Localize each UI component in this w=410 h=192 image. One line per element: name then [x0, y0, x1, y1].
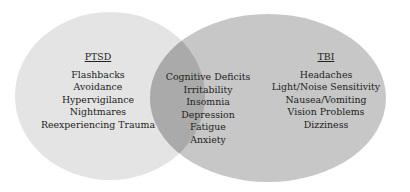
tbi-label-group: TBI Headaches Light/Noise Sensitivity Na… [272, 51, 380, 132]
ptsd-item: Avoidance [41, 81, 155, 94]
ptsd-item: Nightmares [41, 106, 155, 119]
tbi-title: TBI [272, 51, 380, 64]
ptsd-title: PTSD [41, 51, 155, 64]
intersection-label-group: Cognitive Deficits Irritability Insomnia… [166, 71, 251, 147]
tbi-item: Light/Noise Sensitivity [272, 81, 380, 94]
ptsd-item: Hypervigilance [41, 94, 155, 107]
intersection-item: Cognitive Deficits [166, 71, 251, 84]
intersection-item: Anxiety [166, 134, 251, 147]
tbi-item: Dizziness [272, 119, 380, 132]
tbi-item: Headaches [272, 69, 380, 82]
intersection-item: Insomnia [166, 96, 251, 109]
intersection-item: Irritability [166, 84, 251, 97]
ptsd-item: Flashbacks [41, 69, 155, 82]
ptsd-item: Reexperiencing Trauma [41, 119, 155, 132]
ptsd-label-group: PTSD Flashbacks Avoidance Hypervigilance… [41, 51, 155, 132]
tbi-item: Vision Problems [272, 106, 380, 119]
intersection-item: Fatigue [166, 121, 251, 134]
tbi-item: Nausea/Vomiting [272, 94, 380, 107]
intersection-item: Depression [166, 109, 251, 122]
